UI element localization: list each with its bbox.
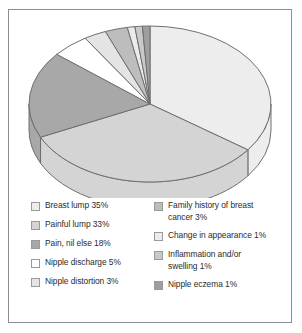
legend-item[interactable]: Painful lump 33% <box>31 219 153 231</box>
legend-item-label: Nipple eczema 1% <box>168 279 237 291</box>
legend-swatch <box>31 259 40 268</box>
legend-item[interactable]: Family history of breast cancer 3% <box>154 200 282 223</box>
legend-item-label: Painful lump 33% <box>45 219 109 231</box>
legend-column-left: Breast lump 35%Painful lump 33%Pain, nil… <box>31 200 153 295</box>
pie-chart-svg <box>19 16 281 198</box>
legend-item-label: Change in appearance 1% <box>168 230 266 242</box>
legend-item-label: Inflammation and/or swelling 1% <box>168 249 241 272</box>
legend-item[interactable]: Nipple discharge 5% <box>31 257 153 269</box>
legend-item-label: Breast lump 35% <box>45 200 108 212</box>
legend-item-label: Family history of breast cancer 3% <box>168 200 253 223</box>
pie-chart <box>19 16 281 198</box>
chart-legend: Breast lump 35%Painful lump 33%Pain, nil… <box>23 200 281 318</box>
legend-swatch <box>154 202 163 211</box>
figure-container: Breast lump 35%Painful lump 33%Pain, nil… <box>0 0 302 333</box>
legend-swatch <box>154 232 163 241</box>
legend-item[interactable]: Change in appearance 1% <box>154 230 282 242</box>
legend-swatch <box>31 240 40 249</box>
pie-slices <box>29 26 271 182</box>
legend-item[interactable]: Inflammation and/or swelling 1% <box>154 249 282 272</box>
legend-item-label: Pain, nil else 18% <box>45 238 111 250</box>
legend-item[interactable]: Pain, nil else 18% <box>31 238 153 250</box>
legend-swatch <box>31 278 40 287</box>
legend-swatch <box>154 281 163 290</box>
legend-swatch <box>154 251 163 260</box>
legend-item[interactable]: Nipple distortion 3% <box>31 276 153 288</box>
legend-item[interactable]: Nipple eczema 1% <box>154 279 282 291</box>
legend-swatch <box>31 202 40 211</box>
figure-frame: Breast lump 35%Painful lump 33%Pain, nil… <box>8 9 292 323</box>
legend-item-label: Nipple discharge 5% <box>45 257 121 269</box>
legend-swatch <box>31 221 40 230</box>
legend-item-label: Nipple distortion 3% <box>45 276 118 288</box>
legend-column-right: Family history of breast cancer 3%Change… <box>154 200 282 298</box>
legend-item[interactable]: Breast lump 35% <box>31 200 153 212</box>
